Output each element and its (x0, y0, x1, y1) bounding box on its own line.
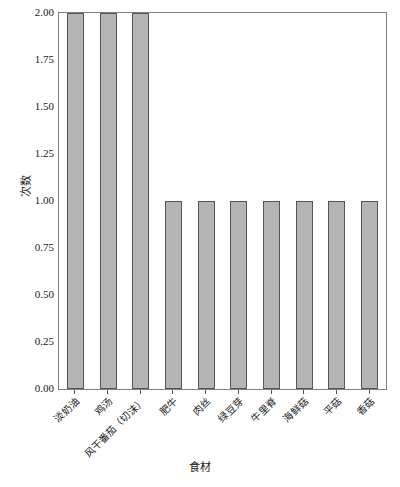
y-tick-label: 1.25 (35, 148, 58, 159)
bar (100, 13, 117, 389)
x-tick-mark (107, 390, 108, 394)
x-tick-mark (205, 390, 206, 394)
y-tick-label: 0.00 (35, 383, 58, 394)
x-tick-mark (172, 390, 173, 394)
x-tick-mark (303, 390, 304, 394)
x-tick-mark (369, 390, 370, 394)
bar (165, 201, 182, 389)
bar (361, 201, 378, 389)
y-tick-label: 1.75 (35, 54, 58, 65)
x-tick-mark (74, 390, 75, 394)
y-tick-label: 1.00 (35, 195, 58, 206)
bar (263, 201, 280, 389)
bar (198, 201, 215, 389)
x-axis-tick-labels: 淡奶油鸡汤风干番茄（切沫）肥牛肉丝绿豆芽牛里脊海鲜菇平菇香菇 (0, 394, 400, 454)
y-tick-label: 0.25 (35, 336, 58, 347)
bar (67, 13, 84, 389)
x-tick-mark (271, 390, 272, 394)
bar (328, 201, 345, 389)
x-tick-mark (336, 390, 337, 394)
bar (230, 201, 247, 389)
y-axis-ticks: 0.000.250.500.751.001.251.501.752.00 (0, 12, 58, 390)
y-tick-label: 0.50 (35, 289, 58, 300)
y-tick-label: 1.50 (35, 101, 58, 112)
x-tick-mark (238, 390, 239, 394)
plot-area (58, 12, 387, 390)
bar (132, 13, 149, 389)
bar (296, 201, 313, 389)
x-axis-title: 食材 (0, 458, 400, 474)
bar-chart-figure: 次数 0.000.250.500.751.001.251.501.752.00 … (0, 0, 400, 487)
y-tick-label: 2.00 (35, 7, 58, 18)
x-tick-mark (140, 390, 141, 394)
y-tick-label: 0.75 (35, 242, 58, 253)
